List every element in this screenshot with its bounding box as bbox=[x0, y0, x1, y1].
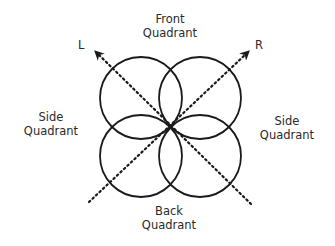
back-label-line1: Back bbox=[138, 204, 200, 218]
side-right-label-line2: Quadrant bbox=[256, 128, 318, 142]
lobe-circles bbox=[100, 57, 241, 197]
side-right-quadrant-label: Side Quadrant bbox=[256, 114, 318, 142]
side-left-quadrant-label: Side Quadrant bbox=[20, 110, 82, 138]
front-label-line2: Quadrant bbox=[140, 26, 200, 40]
r-axis-label: R bbox=[255, 38, 263, 52]
side-left-label-line1: Side bbox=[20, 110, 82, 124]
l-axis-label: L bbox=[78, 38, 84, 52]
side-left-label-line2: Quadrant bbox=[20, 124, 82, 138]
front-quadrant-label: Front Quadrant bbox=[140, 12, 200, 40]
polar-pattern-diagram: Front Quadrant Side Quadrant Side Quadra… bbox=[0, 0, 335, 246]
side-right-label-line1: Side bbox=[256, 114, 318, 128]
front-label-line1: Front bbox=[140, 12, 200, 26]
back-quadrant-label: Back Quadrant bbox=[138, 204, 200, 232]
back-label-line2: Quadrant bbox=[138, 218, 200, 232]
